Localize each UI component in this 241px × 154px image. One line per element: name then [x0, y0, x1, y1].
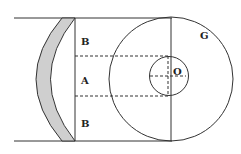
label-upper-b: B: [81, 36, 89, 47]
curved-lens-shape: [36, 18, 75, 141]
label-middle-a: A: [80, 75, 89, 86]
label-lower-b: B: [81, 118, 89, 129]
diagram-canvas: B A B O G: [0, 0, 241, 154]
label-circle-g: G: [200, 30, 209, 41]
label-center-o: O: [173, 66, 182, 77]
